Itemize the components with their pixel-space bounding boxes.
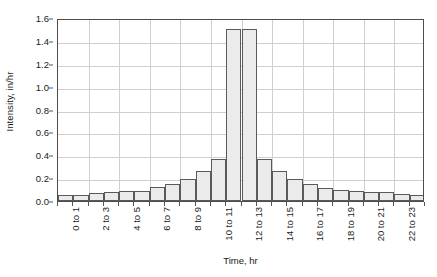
y-axis-tick-mark	[49, 110, 53, 111]
bar	[165, 184, 180, 201]
x-axis-tick-mark	[149, 202, 150, 206]
bar	[134, 191, 149, 201]
plot-area	[57, 19, 424, 202]
x-axis-tick-mark	[179, 202, 180, 206]
x-axis-tick-mark	[378, 202, 379, 206]
x-axis-tick-label: 12 to 13	[252, 207, 266, 253]
x-axis-tick-mark	[225, 202, 226, 206]
y-axis-tick-label: 1.2	[36, 60, 49, 70]
bars-layer	[58, 20, 423, 201]
x-axis-tick-mark	[103, 202, 104, 206]
bar	[303, 184, 318, 201]
y-axis-tick-labels: 0.00.20.40.60.81.01.21.41.6	[18, 0, 53, 210]
y-axis-title: Intensity, in/hr	[0, 0, 18, 202]
bar	[272, 171, 287, 201]
y-axis-tick-mark	[49, 156, 53, 157]
y-axis-tick-mark	[49, 179, 53, 180]
bar	[364, 192, 379, 201]
x-axis-tick-mark	[195, 202, 196, 206]
y-axis-tick-label: 1.4	[36, 37, 49, 47]
bar	[226, 29, 241, 201]
x-axis-tick-mark	[256, 202, 257, 206]
bar	[394, 194, 409, 201]
y-axis-tick-mark	[49, 202, 53, 203]
bar	[349, 191, 364, 201]
bar	[104, 192, 119, 201]
y-axis-tick-mark	[49, 41, 53, 42]
bar	[287, 179, 302, 201]
x-axis-tick-label: 14 to 15	[283, 207, 297, 253]
bar	[150, 187, 165, 201]
y-axis-tick-mark	[49, 133, 53, 134]
bar	[318, 188, 333, 201]
bar	[58, 195, 73, 201]
bar	[73, 195, 88, 201]
x-axis-tick-mark	[241, 202, 242, 206]
x-axis-tick-mark	[317, 202, 318, 206]
y-axis-tick-label: 1.0	[36, 83, 49, 93]
x-axis-tick-label: 22 to 23	[405, 207, 419, 253]
y-axis-tick-label: 0.6	[36, 129, 49, 139]
x-axis-tick-mark	[286, 202, 287, 206]
x-axis-tick-mark	[271, 202, 272, 206]
bar	[333, 190, 348, 201]
x-axis-tick-mark	[363, 202, 364, 206]
y-axis-tick-label: 0.4	[36, 152, 49, 162]
x-axis-tick-mark	[424, 202, 425, 206]
bar	[180, 179, 195, 201]
x-axis-tick-mark	[133, 202, 134, 206]
bar	[89, 193, 104, 201]
y-axis-tick-label: 1.6	[36, 14, 49, 24]
bar	[242, 29, 257, 201]
x-axis-tick-labels: 0 to 12 to 34 to 56 to 78 to 910 to 1112…	[57, 207, 424, 253]
y-axis-title-text: Intensity, in/hr	[4, 71, 15, 131]
x-axis-tick-mark	[88, 202, 89, 206]
x-axis-tick-label: 16 to 17	[313, 207, 327, 253]
x-axis-tick-label: 10 to 11	[222, 207, 236, 253]
x-axis-tick-label: 0 to 1	[69, 207, 83, 253]
y-axis-tick-mark	[49, 64, 53, 65]
bar	[379, 192, 394, 201]
x-axis-tick-label: 8 to 9	[191, 207, 205, 253]
x-axis-title: Time, hr	[57, 255, 424, 266]
x-axis-tick-mark	[393, 202, 394, 206]
x-axis-tick-label: 2 to 3	[99, 207, 113, 253]
y-axis-tick-label: 0.2	[36, 174, 49, 184]
x-axis-tick-mark	[332, 202, 333, 206]
x-axis-tick-mark	[210, 202, 211, 206]
bar	[257, 159, 272, 201]
x-axis-tick-mark	[302, 202, 303, 206]
x-axis-tick-mark	[348, 202, 349, 206]
x-axis-tick-mark	[72, 202, 73, 206]
x-axis-tick-mark	[118, 202, 119, 206]
y-axis-tick-mark	[49, 19, 53, 20]
x-axis-tick-mark	[409, 202, 410, 206]
y-axis-tick-label: 0.0	[36, 197, 49, 207]
x-axis-tick-mark	[57, 202, 58, 206]
x-axis-tick-label: 18 to 19	[344, 207, 358, 253]
x-axis-tick-mark	[164, 202, 165, 206]
bar	[196, 171, 211, 201]
rainfall-intensity-bar-chart: Intensity, in/hr 0.00.20.40.60.81.01.21.…	[0, 0, 437, 277]
bar	[410, 195, 424, 201]
y-axis-tick-label: 0.8	[36, 106, 49, 116]
x-axis-tick-label: 4 to 5	[130, 207, 144, 253]
x-axis-tick-label: 20 to 21	[374, 207, 388, 253]
x-axis-tick-label: 6 to 7	[160, 207, 174, 253]
bar	[119, 191, 134, 201]
bar	[211, 159, 226, 201]
y-axis-tick-mark	[49, 87, 53, 88]
